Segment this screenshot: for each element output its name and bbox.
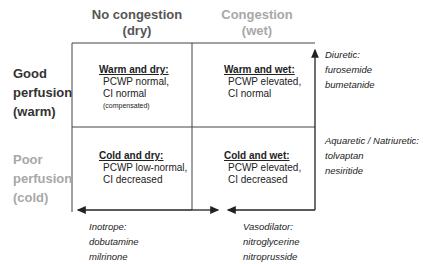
cell-title: Cold and dry:: [99, 150, 187, 162]
row-header-line: perfusion: [13, 169, 72, 188]
therapy-drug: bumetanide: [325, 77, 375, 92]
cell-ci: CI normal: [224, 88, 301, 100]
column-header-line: Congestion: [212, 7, 302, 23]
cell-pcwp: PCWP elevated,: [224, 162, 301, 174]
row-header-poor-perfusion: Poor perfusion (cold): [13, 150, 72, 207]
therapy-drug: furosemide: [325, 62, 375, 77]
column-header-no-congestion: No congestion (dry): [82, 7, 192, 39]
cell-title: Warm and wet:: [224, 64, 301, 76]
row-header-line: (cold): [13, 188, 72, 207]
cell-ci: CI decreased: [224, 174, 301, 186]
cell-note: (compensated): [99, 100, 169, 112]
cell-pcwp: PCWP low-normal,: [99, 162, 187, 174]
cell-warm-dry: Warm and dry: PCWP normal, CI normal (co…: [99, 64, 169, 112]
therapy-drug: nitroprusside: [243, 249, 300, 264]
therapy-drug: nesiritide: [325, 163, 419, 178]
therapy-drug: dobutamine: [89, 234, 139, 249]
cell-cold-wet: Cold and wet: PCWP elevated, CI decrease…: [224, 150, 301, 186]
therapy-label: Diuretic:: [325, 47, 375, 62]
therapy-label: Vasodilator:: [243, 219, 300, 234]
cell-ci: CI decreased: [99, 174, 187, 186]
cell-title: Cold and wet:: [224, 150, 301, 162]
therapy-diuretic: Diuretic: furosemide bumetanide: [325, 47, 375, 92]
therapy-label: Aquaretic / Natriuretic:: [325, 133, 419, 148]
column-header-line: (wet): [212, 23, 302, 39]
row-header-line: Good: [13, 64, 72, 83]
cell-pcwp: PCWP normal,: [99, 76, 169, 88]
therapy-inotrope: Inotrope: dobutamine milrinone: [89, 219, 139, 264]
therapy-drug: nitroglycerine: [243, 234, 300, 249]
column-header-congestion: Congestion (wet): [212, 7, 302, 39]
cell-ci: CI normal: [99, 88, 169, 100]
therapy-aquaretic-natriuretic: Aquaretic / Natriuretic: tolvaptan nesir…: [325, 133, 419, 178]
therapy-drug: tolvaptan: [325, 148, 419, 163]
therapy-drug: milrinone: [89, 249, 139, 264]
cell-pcwp: PCWP elevated,: [224, 76, 301, 88]
row-header-line: Poor: [13, 150, 72, 169]
cell-cold-dry: Cold and dry: PCWP low-normal, CI decrea…: [99, 150, 187, 186]
cell-warm-wet: Warm and wet: PCWP elevated, CI normal: [224, 64, 301, 100]
therapy-vasodilator: Vasodilator: nitroglycerine nitroprussid…: [243, 219, 300, 264]
therapy-label: Inotrope:: [89, 219, 139, 234]
column-header-line: (dry): [82, 23, 192, 39]
cell-title: Warm and dry:: [99, 64, 169, 76]
column-header-line: No congestion: [82, 7, 192, 23]
row-header-line: (warm): [13, 102, 72, 121]
row-header-line: perfusion: [13, 83, 72, 102]
row-header-good-perfusion: Good perfusion (warm): [13, 64, 72, 121]
